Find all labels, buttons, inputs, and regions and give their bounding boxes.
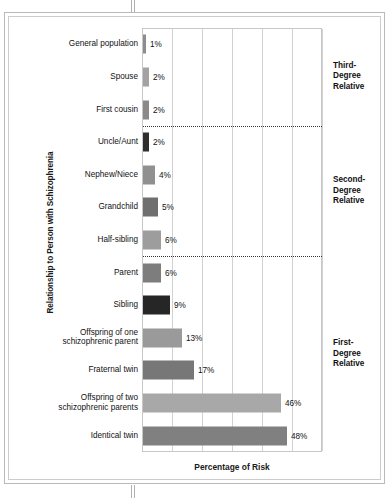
- group-annotation-line: Relative: [333, 196, 387, 207]
- bar-value-label: 48%: [291, 431, 307, 440]
- group-annotation-line: Degree: [333, 71, 387, 82]
- bar-value-label: 17%: [198, 366, 214, 375]
- group-annotation-line: First-: [333, 338, 387, 349]
- group-annotation-line: Relative: [333, 359, 387, 370]
- bar-row[interactable]: Offspring of twoschizophrenic parents46%: [0, 388, 390, 418]
- bar-value-label: 4%: [159, 170, 171, 179]
- bar[interactable]: [143, 67, 149, 86]
- group-annotation-line: Degree: [333, 186, 387, 197]
- bar-row[interactable]: Identical twin48%: [0, 421, 390, 451]
- bar-value-label: 9%: [174, 301, 186, 310]
- bar-row[interactable]: Nephew/Niece4%: [0, 160, 390, 190]
- bar[interactable]: [143, 100, 149, 119]
- bar-row[interactable]: Sibling9%: [0, 290, 390, 320]
- bar[interactable]: [143, 263, 161, 282]
- bar-row[interactable]: Spouse2%: [0, 62, 390, 92]
- group-separator: [143, 256, 322, 257]
- category-label: Uncle/Aunt: [18, 137, 138, 147]
- bar-row[interactable]: Grandchild5%: [0, 192, 390, 222]
- group-separator: [143, 126, 322, 127]
- bar[interactable]: [143, 328, 182, 347]
- category-label: General population: [18, 40, 138, 50]
- bar[interactable]: [143, 35, 146, 54]
- bar-value-label: 1%: [150, 40, 162, 49]
- group-annotation: Second-DegreeRelative: [333, 175, 387, 207]
- category-label: Offspring of twoschizophrenic parents: [18, 393, 138, 412]
- category-label: Fraternal twin: [18, 366, 138, 376]
- bar-value-label: 46%: [285, 399, 301, 408]
- bar-row[interactable]: Parent6%: [0, 258, 390, 288]
- category-label: Half-sibling: [18, 235, 138, 245]
- category-label: Grandchild: [18, 203, 138, 213]
- bar[interactable]: [143, 133, 149, 152]
- bar-row[interactable]: Offspring of oneschizophrenic parent13%: [0, 323, 390, 353]
- bar-value-label: 2%: [153, 105, 165, 114]
- chart-page: Relationship to Person with Schizophreni…: [0, 0, 390, 498]
- category-label: Nephew/Niece: [18, 170, 138, 180]
- bar[interactable]: [143, 231, 161, 250]
- page-binding-notch-top: [131, 0, 135, 12]
- bar-row[interactable]: Fraternal twin17%: [0, 355, 390, 385]
- category-label: Sibling: [18, 300, 138, 310]
- category-label: Identical twin: [18, 431, 138, 441]
- group-annotation: First-DegreeRelative: [333, 338, 387, 370]
- bar-value-label: 6%: [165, 268, 177, 277]
- page-binding-notch-bottom: [131, 485, 135, 498]
- bar-value-label: 5%: [162, 203, 174, 212]
- bar-value-label: 2%: [153, 138, 165, 147]
- group-annotation-line: Degree: [333, 349, 387, 360]
- bar[interactable]: [143, 198, 158, 217]
- category-label: Spouse: [18, 72, 138, 82]
- bar[interactable]: [143, 296, 170, 315]
- bar-value-label: 6%: [165, 236, 177, 245]
- category-label: Offspring of oneschizophrenic parent: [18, 328, 138, 347]
- bar-value-label: 2%: [153, 72, 165, 81]
- bar[interactable]: [143, 394, 281, 413]
- bar-value-label: 13%: [186, 333, 202, 342]
- bar-row[interactable]: General population1%: [0, 29, 390, 59]
- group-annotation-line: Second-: [333, 175, 387, 186]
- bar[interactable]: [143, 165, 155, 184]
- group-annotation-line: Relative: [333, 82, 387, 93]
- bar[interactable]: [143, 361, 194, 380]
- group-annotation: Third-DegreeRelative: [333, 61, 387, 93]
- bar[interactable]: [143, 426, 287, 445]
- category-label: Parent: [18, 268, 138, 278]
- category-label: First cousin: [18, 105, 138, 115]
- bar-row[interactable]: Half-sibling6%: [0, 225, 390, 255]
- x-axis-title: Percentage of Risk: [142, 462, 322, 472]
- group-annotation-line: Third-: [333, 61, 387, 72]
- bar-row[interactable]: Uncle/Aunt2%: [0, 127, 390, 157]
- bar-row[interactable]: First cousin2%: [0, 95, 390, 125]
